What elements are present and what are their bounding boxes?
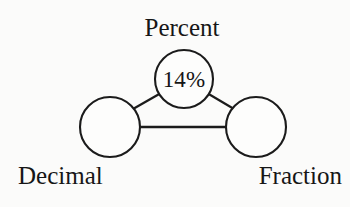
node-value-percent: 14% [146, 68, 222, 91]
concept-diagram: Percent 14% Decimal Fraction [0, 0, 350, 207]
edge-decimal-percent [133, 93, 161, 109]
node-label-percent: Percent [100, 15, 264, 40]
node-circle-decimal [80, 97, 140, 157]
node-label-decimal: Decimal [8, 163, 198, 188]
node-label-fraction: Fraction [175, 163, 350, 188]
edge-percent-fraction [207, 93, 234, 109]
node-circle-fraction [226, 97, 286, 157]
